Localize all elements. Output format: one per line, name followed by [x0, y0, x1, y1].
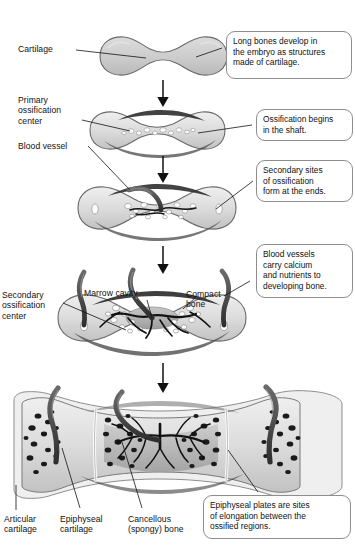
label-articular-cartilage: Articular cartilage — [4, 514, 37, 535]
callout-epiphyseal-plates: Epiphyseal plates are sites of elongatio… — [203, 495, 351, 539]
callout-cartilage-model: Long bones develop in the embryo as stru… — [226, 31, 352, 79]
label-marrow-cavity: Marrow cavity — [84, 288, 138, 298]
callout-secondary-ossification: Secondary sites of ossification form at … — [256, 160, 353, 202]
label-compact-bone: Compact bone — [186, 289, 221, 310]
label-secondary-ossification-center: Secondary ossification center — [2, 290, 45, 321]
callout-primary-ossification: Ossification begins in the shaft. — [256, 109, 353, 141]
callout-blood-vessels: Blood vessels carry calcium and nutrient… — [256, 244, 353, 298]
label-primary-ossification-center: Primary ossification center — [18, 95, 61, 126]
endochondral-ossification-figure: Cartilage Primary ossification center Bl… — [0, 0, 355, 551]
label-cartilage: Cartilage — [18, 44, 53, 54]
label-epiphyseal-cartilage: Epiphyseal cartilage — [60, 514, 103, 535]
label-cancellous-spongy-bone: Cancellous (spongy) bone — [128, 514, 184, 535]
label-blood-vessel: Blood vessel — [18, 141, 67, 151]
